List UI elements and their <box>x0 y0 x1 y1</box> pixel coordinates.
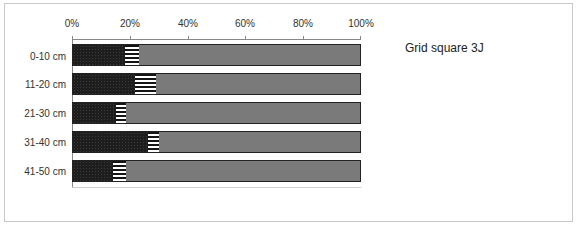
x-axis-tick <box>130 36 131 40</box>
bar-segment-series1 <box>73 45 125 65</box>
x-tick-60: 60% <box>235 18 255 29</box>
category-label: 21-30 cm <box>0 108 66 119</box>
bar-segment-series2 <box>135 74 157 94</box>
chart-annotation-title: Grid square 3J <box>405 41 484 55</box>
bar-segment-series3 <box>156 74 360 94</box>
x-tick-80: 80% <box>293 18 313 29</box>
bar-segment-series1 <box>73 132 148 152</box>
bar-21-30cm <box>72 102 361 124</box>
bar-segment-series1 <box>73 103 116 123</box>
bar-segment-series1 <box>73 161 113 181</box>
bar-segment-series2 <box>116 103 126 123</box>
x-axis-tick <box>303 36 304 40</box>
x-axis <box>72 39 361 40</box>
x-tick-0: 0% <box>65 18 79 29</box>
bar-11-20cm <box>72 73 361 95</box>
bar-segment-series2 <box>113 161 126 181</box>
bar-segment-series2 <box>125 45 139 65</box>
bar-segment-series3 <box>159 132 360 152</box>
x-tick-100: 100% <box>348 18 374 29</box>
bar-segment-series3 <box>126 103 360 123</box>
x-axis-tick <box>360 36 361 40</box>
bar-0-10cm <box>72 44 361 66</box>
bar-segment-series3 <box>126 161 360 181</box>
category-label: 11-20 cm <box>0 79 66 90</box>
x-axis-tick <box>188 36 189 40</box>
x-tick-40: 40% <box>178 18 198 29</box>
bar-segment-series2 <box>148 132 159 152</box>
category-label: 0-10 cm <box>0 51 66 62</box>
category-label: 41-50 cm <box>0 166 66 177</box>
bar-31-40cm <box>72 131 361 153</box>
x-tick-20: 20% <box>120 18 140 29</box>
bar-segment-series1 <box>73 74 135 94</box>
x-axis-tick <box>245 36 246 40</box>
x-axis-bottom <box>72 187 361 188</box>
bar-segment-series3 <box>139 45 360 65</box>
category-label: 31-40 cm <box>0 137 66 148</box>
bar-41-50cm <box>72 160 361 182</box>
